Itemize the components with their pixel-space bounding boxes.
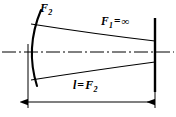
flat-mirror-focal-symbol: F — [101, 15, 109, 27]
curved-mirror-focal-symbol: F — [40, 1, 48, 15]
cavity-length-operator: = — [76, 78, 85, 92]
optical-resonator-diagram: F2 F1=∞ l=F2 — [0, 0, 176, 117]
curved-mirror-focal-label: F2 — [40, 2, 52, 18]
curved-mirror-focal-subscript: 2 — [48, 8, 52, 17]
cavity-length-label: l=F2 — [73, 79, 98, 95]
beam-envelope-upper — [31, 24, 155, 41]
cavity-length-value-symbol: F — [85, 78, 93, 92]
cavity-length-value-subscript: 2 — [93, 85, 97, 94]
diagram-canvas — [0, 0, 176, 117]
flat-mirror-focal-label: F1=∞ — [101, 16, 129, 30]
concave-mirror — [32, 10, 41, 86]
infinity-symbol: ∞ — [121, 16, 129, 27]
